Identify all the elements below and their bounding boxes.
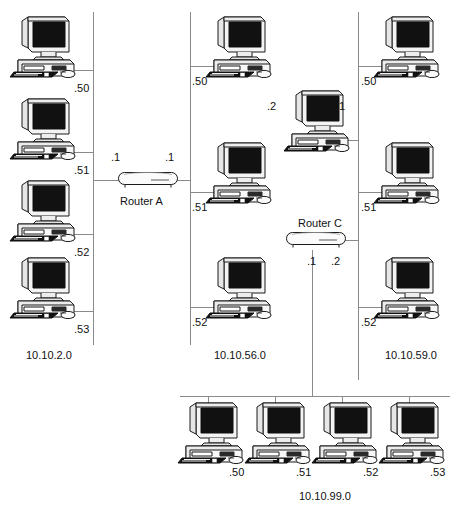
host-interface-pc-dual-homed-0: .2 xyxy=(267,101,276,112)
network-label-net-10-10-99-0: 10.10.99.0 xyxy=(299,491,351,502)
pc-10-10-2-53[interactable] xyxy=(8,255,84,319)
pc-10-10-99-50[interactable] xyxy=(176,400,252,464)
host-address-pc-10-10-56-50: .50 xyxy=(192,76,207,87)
network-diagram: .50.51.52.5310.10.2.0.50.51.5210.10.56.0… xyxy=(0,0,471,510)
router-interface-router-c-1: .2 xyxy=(331,256,340,267)
host-address-pc-10-10-59-52: .52 xyxy=(361,317,376,328)
pc-10-10-99-51[interactable] xyxy=(243,400,319,464)
router-link-router-a-0 xyxy=(93,180,119,181)
pc-10-10-99-52[interactable] xyxy=(310,400,386,464)
network-label-net-10-10-2-0: 10.10.2.0 xyxy=(26,350,72,361)
router-interface-router-a-0: .1 xyxy=(111,152,120,163)
network-label-net-10-10-59-0: 10.10.59.0 xyxy=(385,350,437,361)
router-interface-router-c-0: .1 xyxy=(307,256,316,267)
host-address-pc-10-10-99-52: .52 xyxy=(363,467,378,478)
pc-10-10-2-52[interactable] xyxy=(8,178,84,242)
pc-10-10-2-51[interactable] xyxy=(8,96,84,160)
host-address-pc-10-10-56-51: .51 xyxy=(192,202,207,213)
host-address-pc-10-10-59-51: .51 xyxy=(361,202,376,213)
pc-dual-homed[interactable] xyxy=(282,88,358,152)
host-address-pc-10-10-59-50: .50 xyxy=(361,76,376,87)
host-address-pc-10-10-99-50: .50 xyxy=(229,467,244,478)
network-bus-net-10-10-56-0 xyxy=(190,12,191,345)
pc-10-10-56-51[interactable] xyxy=(204,140,280,204)
host-address-pc-10-10-2-50: .50 xyxy=(74,83,89,94)
host-address-pc-10-10-99-51: .51 xyxy=(296,467,311,478)
pc-10-10-56-50[interactable] xyxy=(204,14,280,78)
host-address-pc-10-10-99-53: .53 xyxy=(430,467,445,478)
router-vlink-router-c-0 xyxy=(312,250,313,396)
pc-10-10-59-50[interactable] xyxy=(372,14,448,78)
router-a[interactable] xyxy=(117,170,179,190)
pc-10-10-99-53[interactable] xyxy=(377,400,453,464)
network-label-net-10-10-56-0: 10.10.56.0 xyxy=(214,350,266,361)
router-label-router-c: Router C xyxy=(298,218,342,229)
network-bus-net-10-10-2-0 xyxy=(93,12,94,345)
router-interface-router-a-1: .1 xyxy=(165,152,174,163)
router-c[interactable] xyxy=(285,230,347,250)
pc-10-10-2-50[interactable] xyxy=(8,14,84,78)
router-label-router-a: Router A xyxy=(120,196,163,207)
pc-10-10-59-51[interactable] xyxy=(372,140,448,204)
host-address-pc-10-10-2-51: .51 xyxy=(74,165,89,176)
host-address-pc-10-10-56-52: .52 xyxy=(192,317,207,328)
host-interface-pc-dual-homed-1: .1 xyxy=(336,101,345,112)
host-address-pc-10-10-2-53: .53 xyxy=(74,324,89,335)
network-bus-net-10-10-59-0 xyxy=(358,12,359,380)
pc-10-10-59-52[interactable] xyxy=(372,255,448,319)
pc-10-10-56-52[interactable] xyxy=(204,255,280,319)
